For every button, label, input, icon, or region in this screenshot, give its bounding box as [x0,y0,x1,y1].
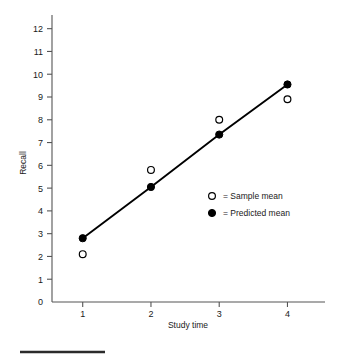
y-tick-label: 4 [38,206,43,216]
sample-mean-point [216,116,223,123]
sample-mean-point [284,96,291,103]
y-tick-label: 12 [33,24,43,34]
legend-label: = Predicted mean [223,208,290,218]
y-tick-label: 2 [38,252,43,262]
x-tick-label: 1 [80,309,85,319]
legend-label: = Sample mean [223,191,283,201]
x-tick-label: 4 [285,309,290,319]
x-axis-title: Study time [168,320,208,330]
recall-vs-study-time-chart: 0123456789101112 1234 Study time Recall … [0,0,339,358]
y-tick-label: 7 [38,138,43,148]
y-axis-title: Recall [18,151,28,175]
y-tick-label: 3 [38,229,43,239]
predicted-mean-point [284,81,291,88]
predicted-mean-point [79,235,86,242]
predicted-mean-point [216,131,223,138]
x-tick-label: 3 [217,309,222,319]
y-tick-label: 0 [38,297,43,307]
sample-mean-point [79,251,86,258]
predicted-mean-point [147,183,154,190]
chart-background [0,0,339,358]
x-tick-label: 2 [148,309,153,319]
y-tick-label: 11 [34,47,43,57]
sample-mean-point [148,166,155,173]
y-tick-label: 9 [38,92,43,102]
legend-open-circle-icon [209,193,216,200]
chart-figure: 0123456789101112 1234 Study time Recall … [0,0,339,358]
y-tick-label: 10 [33,70,43,80]
y-tick-label: 6 [38,161,43,171]
y-tick-label: 5 [38,184,43,194]
y-tick-label: 8 [38,115,43,125]
y-tick-label: 1 [38,275,43,285]
legend-filled-circle-icon [208,209,215,216]
